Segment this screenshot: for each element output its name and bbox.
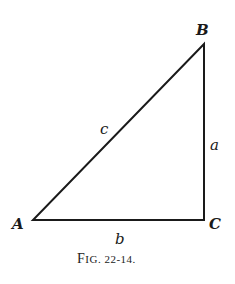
- vertex-label-a: A: [10, 215, 24, 233]
- figure-caption: FIG. 22-14.: [77, 251, 136, 266]
- side-label-b: b: [115, 230, 125, 248]
- side-label-c: c: [100, 120, 109, 138]
- triangle-abc: [33, 44, 204, 220]
- side-label-a: a: [210, 136, 219, 154]
- vertex-label-c: C: [209, 215, 221, 233]
- vertex-label-b: B: [195, 21, 209, 39]
- triangle-diagram: A B C a b c FIG. 22-14.: [0, 0, 235, 284]
